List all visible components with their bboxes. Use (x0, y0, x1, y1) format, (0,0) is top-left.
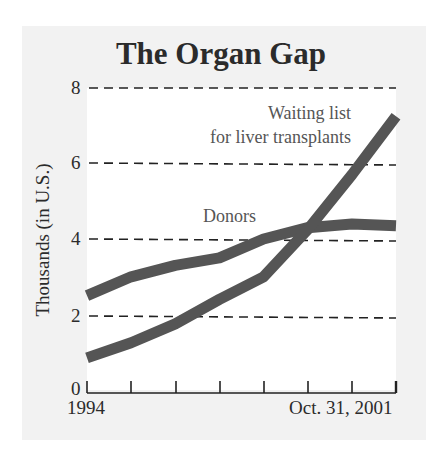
chart-plot (0, 0, 442, 457)
x-tick-end: Oct. 31, 2001 (289, 397, 392, 419)
donors-annotation: Donors (203, 204, 256, 228)
x-tick-start: 1994 (67, 397, 105, 419)
y-tick-6: 6 (71, 152, 81, 174)
y-tick-2: 2 (71, 305, 81, 327)
waiting-list-annotation: Waiting list for liver transplants (210, 101, 351, 149)
y-tick-8: 8 (71, 77, 81, 99)
y-axis-label-text: Thousands (in U.S.) (32, 163, 54, 316)
waiting-list-label-line2: for liver transplants (210, 125, 351, 149)
y-tick-4: 4 (71, 228, 81, 250)
waiting-list-label-line1: Waiting list (210, 101, 351, 125)
